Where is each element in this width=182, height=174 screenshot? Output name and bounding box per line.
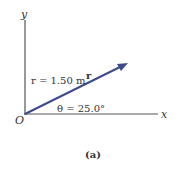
vector-name-label: r <box>86 71 91 81</box>
vector-diagram <box>0 0 182 174</box>
origin-label: O <box>15 115 24 126</box>
figure-caption: (a) <box>85 150 101 160</box>
angle-label: θ = 25.0° <box>57 104 105 114</box>
magnitude-label: r = 1.50 m <box>31 76 85 86</box>
x-axis-label: x <box>161 109 167 120</box>
y-axis-label: y <box>21 9 27 20</box>
